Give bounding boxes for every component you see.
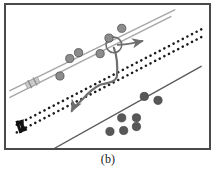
- gps-point-upper: [96, 50, 104, 58]
- gps-point-lower: [120, 126, 128, 134]
- gps-point-upper: [56, 72, 64, 80]
- gps-point-upper: [66, 54, 74, 62]
- vehicle-marker-light-icon: [24, 76, 40, 90]
- gps-point-upper: [105, 34, 113, 42]
- figure-caption: (b): [0, 152, 216, 167]
- gps-point-upper: [74, 49, 82, 57]
- gps-point-lower: [154, 96, 162, 104]
- gps-point-lower: [140, 92, 148, 100]
- gps-point-lower: [132, 123, 140, 131]
- plot-frame: [4, 3, 211, 150]
- gps-point-lower: [106, 127, 114, 135]
- gps-points-lower-group: [106, 92, 162, 135]
- road-solid-lower-line: [55, 66, 201, 148]
- gps-point-lower: [118, 114, 126, 122]
- gps-point-upper: [118, 24, 126, 32]
- road-dotted-lower-line: [17, 35, 205, 132]
- gps-point-lower: [132, 114, 140, 122]
- plot-canvas: [6, 5, 209, 148]
- figure-root: (b): [0, 0, 216, 176]
